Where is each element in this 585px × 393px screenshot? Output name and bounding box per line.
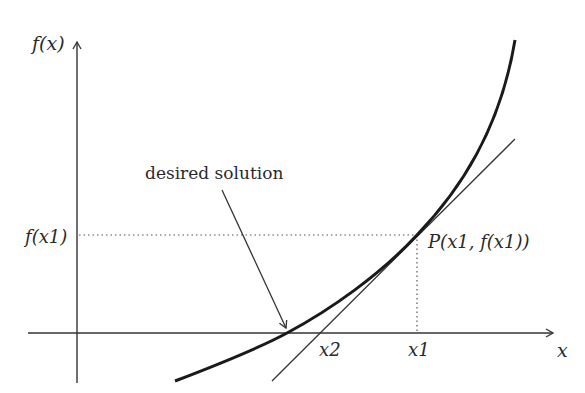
x2-label: x2	[319, 339, 341, 360]
point-p-label: P(x1, f(x1))	[427, 231, 530, 252]
desired-solution-annotation: desired solution	[145, 163, 283, 183]
annotation-arrow	[222, 190, 286, 328]
newton-method-diagram: f(x) x f(x1) P(x1, f(x1)) x1 x2 desired …	[0, 0, 585, 393]
x-axis-label: x	[557, 339, 568, 361]
f-x1-label: f(x1)	[23, 226, 67, 247]
function-curve	[175, 40, 515, 381]
y-axis-label: f(x)	[30, 32, 65, 54]
x1-label: x1	[408, 339, 430, 360]
